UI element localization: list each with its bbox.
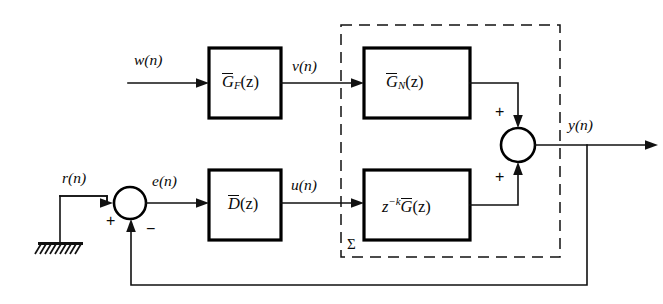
block-diagram: w(n) v(n) r(n) e(n) u(n) y(n) GF(z) GN(z… <box>0 0 663 304</box>
wire-w-to-filter <box>128 78 209 88</box>
signal-label-u: u(n) <box>291 177 317 193</box>
summing-junction-error <box>114 187 146 219</box>
wire-e-to-controller <box>146 198 209 208</box>
ground-symbol <box>35 196 83 254</box>
signal-label-y: y(n) <box>568 117 593 133</box>
signal-label-w: w(n) <box>134 52 162 68</box>
block-label-d: D(z) <box>228 196 258 213</box>
sign-label-left-plus: + <box>106 213 115 229</box>
block-label-gn: GN(z) <box>386 74 424 91</box>
sign-label-left-minus: − <box>146 221 155 237</box>
wire-u-to-plant <box>281 198 364 208</box>
block-label-gf-base: G <box>222 74 234 91</box>
block-label-d-arg: (z) <box>240 194 258 213</box>
signal-label-v: v(n) <box>292 58 317 74</box>
block-label-d-base: D <box>228 196 240 213</box>
sign-label-right-plus-bottom: + <box>495 169 504 185</box>
block-label-gf-subscript: F <box>234 79 241 91</box>
block-label-gn-base: G <box>386 74 398 91</box>
diagram-canvas <box>0 0 663 304</box>
wire-v-to-nominal <box>281 78 364 88</box>
summing-junction-output <box>501 128 535 162</box>
wire-r-to-summer <box>60 196 113 208</box>
sign-label-right-plus-top: + <box>495 104 504 120</box>
block-label-gf: GF(z) <box>222 74 259 91</box>
block-label-gf-arg: (z) <box>241 72 259 91</box>
signal-label-e: e(n) <box>152 173 177 189</box>
wire-output-y <box>535 140 658 150</box>
block-label-plant-arg: (z) <box>413 197 431 216</box>
block-label-plant-base: G <box>401 199 413 216</box>
block-label-plant-exponent: −k <box>388 195 400 207</box>
block-label-plant: z−kG(z) <box>382 196 431 215</box>
block-label-gn-arg: (z) <box>405 72 423 91</box>
subsystem-label-sigma: Σ <box>347 237 356 252</box>
signal-label-r: r(n) <box>62 170 86 186</box>
